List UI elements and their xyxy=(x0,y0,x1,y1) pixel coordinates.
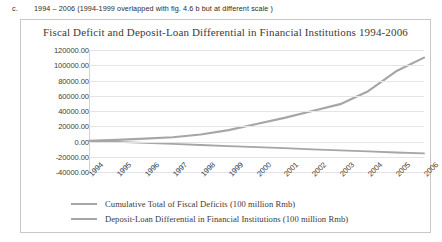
legend-swatch-icon xyxy=(71,203,97,205)
y-axis-labels: 120000.00100000.0080000.0060000.0040000.… xyxy=(21,50,89,172)
plot-area xyxy=(89,50,424,172)
y-tick-label: 0.00 xyxy=(75,137,89,146)
caption-marker: c. xyxy=(12,3,34,14)
chart-frame: Fiscal Deficit and Deposit-Loan Differen… xyxy=(20,19,431,233)
legend-label: Cumulative Total of Fiscal Deficits (100… xyxy=(105,199,295,209)
gridline xyxy=(89,65,424,66)
y-tick-label: 120000.00 xyxy=(54,46,89,55)
legend-item[interactable]: Cumulative Total of Fiscal Deficits (100… xyxy=(21,196,432,211)
plot-wrapper: 120000.00100000.0080000.0060000.0040000.… xyxy=(21,50,432,172)
y-tick-label: 100000.00 xyxy=(54,61,89,70)
gridline xyxy=(89,81,424,82)
legend-label: Deposit-Loan Differential in Financial I… xyxy=(105,214,348,224)
figure-caption: c.1994 – 2006 (1994-1999 overlapped with… xyxy=(12,3,432,14)
series-line xyxy=(89,58,424,141)
y-tick-label: 20000.00 xyxy=(58,122,89,131)
y-tick-label: 60000.00 xyxy=(58,91,89,100)
chart-legend: Cumulative Total of Fiscal Deficits (100… xyxy=(21,196,432,226)
figure-page: c.1994 – 2006 (1994-1999 overlapped with… xyxy=(0,0,442,242)
gridline xyxy=(89,157,424,158)
caption-text: 1994 – 2006 (1994-1999 overlapped with f… xyxy=(34,4,273,13)
gridline xyxy=(89,111,424,112)
legend-swatch-icon xyxy=(71,218,97,220)
gridline xyxy=(89,142,424,143)
gridline xyxy=(89,50,424,51)
gridline xyxy=(89,126,424,127)
y-tick-label: 80000.00 xyxy=(58,76,89,85)
y-tick-label: 40000.00 xyxy=(58,107,89,116)
y-tick-label: -40000.00 xyxy=(56,168,89,177)
y-tick-label: -20000.00 xyxy=(56,152,89,161)
chart-title: Fiscal Deficit and Deposit-Loan Differen… xyxy=(21,26,430,38)
legend-item[interactable]: Deposit-Loan Differential in Financial I… xyxy=(21,211,432,226)
gridline xyxy=(89,96,424,97)
